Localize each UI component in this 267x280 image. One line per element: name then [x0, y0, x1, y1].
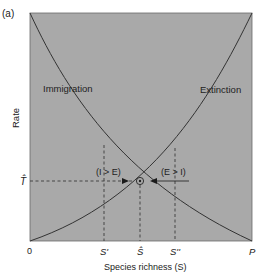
i-gt-e-label: (I > E) — [96, 167, 121, 177]
extinction-label: Extinction — [200, 84, 241, 95]
y-axis-label: Rate — [10, 108, 21, 128]
x-axis-label: Species richness (S) — [104, 262, 187, 272]
e-gt-i-label: (E > I) — [161, 167, 186, 177]
island-biogeography-chart: (a) Immigration Extinction (I > E) (E > … — [0, 0, 267, 280]
panel-label: (a) — [2, 8, 14, 19]
x-tick-s-dprime: S'' — [170, 246, 181, 257]
immigration-label: Immigration — [43, 83, 93, 94]
x-tick-s-hat: Ŝ — [137, 246, 144, 257]
t-hat-label: T̂ — [20, 174, 27, 187]
plot-area — [30, 13, 252, 241]
x-tick-p: P — [249, 246, 256, 257]
x-tick-zero: 0 — [27, 246, 32, 256]
x-tick-s-prime: S' — [100, 246, 109, 257]
equilibrium-point — [139, 180, 141, 182]
